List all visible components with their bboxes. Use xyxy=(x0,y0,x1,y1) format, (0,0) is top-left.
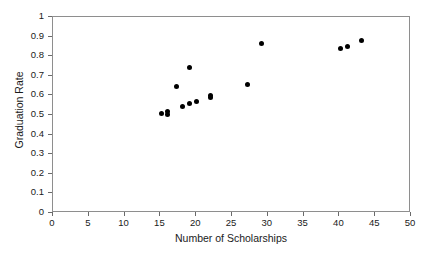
y-axis-label: Graduation Rate xyxy=(13,45,25,175)
x-axis-tick xyxy=(88,212,89,216)
x-axis-tick-label: 5 xyxy=(73,217,103,229)
x-axis-tick xyxy=(195,212,196,216)
data-point xyxy=(165,112,170,117)
data-point xyxy=(259,41,264,46)
y-axis-tick xyxy=(48,134,52,135)
chart-title: . xyxy=(0,0,429,4)
y-axis-tick xyxy=(48,212,52,213)
x-axis-tick xyxy=(124,212,125,216)
data-point xyxy=(187,65,192,70)
y-axis-tick-label: 0.9 xyxy=(4,31,44,41)
x-axis-tick-label: 50 xyxy=(395,217,425,229)
y-axis-tick xyxy=(48,173,52,174)
y-axis-tick xyxy=(48,36,52,37)
data-point xyxy=(159,111,164,116)
x-axis-tick-label: 25 xyxy=(216,217,246,229)
x-axis-tick xyxy=(374,212,375,216)
data-point xyxy=(345,44,350,49)
x-axis-tick-label: 35 xyxy=(288,217,318,229)
y-axis-tick-label: 0 xyxy=(4,207,44,217)
data-point xyxy=(180,104,185,109)
y-axis-tick xyxy=(48,153,52,154)
x-axis-tick xyxy=(267,212,268,216)
data-point xyxy=(194,99,199,104)
y-axis-tick-label: 0.1 xyxy=(4,187,44,197)
y-axis-tick xyxy=(48,75,52,76)
x-axis-tick xyxy=(52,212,53,216)
data-point xyxy=(208,95,213,100)
x-axis-tick-label: 0 xyxy=(37,217,67,229)
x-axis-tick-label: 45 xyxy=(359,217,389,229)
data-point xyxy=(245,82,250,87)
x-axis-label: Number of Scholarships xyxy=(52,232,410,244)
data-point xyxy=(187,101,192,106)
x-axis-tick-label: 20 xyxy=(180,217,210,229)
x-axis-tick-label: 10 xyxy=(109,217,139,229)
plot-area xyxy=(52,16,410,212)
y-axis-tick xyxy=(48,94,52,95)
x-axis-tick xyxy=(303,212,304,216)
data-points-layer xyxy=(53,17,409,211)
x-axis-tick-label: 40 xyxy=(323,217,353,229)
y-axis-tick-label: 1 xyxy=(4,11,44,21)
x-axis-tick-label: 30 xyxy=(252,217,282,229)
x-axis-tick xyxy=(231,212,232,216)
y-axis-tick xyxy=(48,114,52,115)
data-point xyxy=(338,46,343,51)
x-axis-tick xyxy=(338,212,339,216)
x-axis-tick-label: 15 xyxy=(144,217,174,229)
x-axis-tick xyxy=(159,212,160,216)
y-axis-tick xyxy=(48,55,52,56)
x-axis-tick xyxy=(410,212,411,216)
y-axis-tick xyxy=(48,16,52,17)
data-point xyxy=(174,84,179,89)
data-point xyxy=(359,38,364,43)
y-axis-tick xyxy=(48,192,52,193)
scatter-plot-figure: . 0510152025303540455000.10.20.30.40.50.… xyxy=(0,0,429,259)
